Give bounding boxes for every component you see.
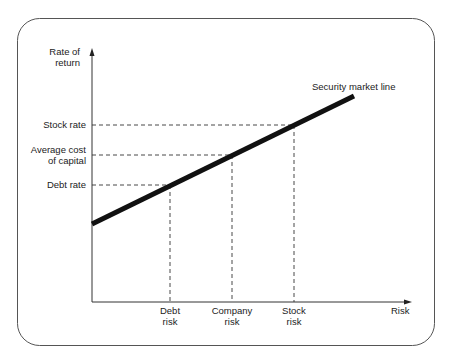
y-tick-debt-rate: Debt rate [10, 179, 86, 190]
y-axis-title-line2: return [30, 57, 80, 68]
y-axis-title-line1: Rate of [30, 46, 80, 57]
security-market-line-diagram: Rate of return Stock rate Average cost o… [0, 0, 452, 361]
x-tick-company-risk-line1: Company [202, 305, 262, 316]
x-tick-company-risk: Company risk [202, 305, 262, 327]
y-tick-average-cost: Average cost of capital [10, 144, 86, 166]
x-tick-debt-risk-line1: Debt [145, 305, 195, 316]
security-market-line [92, 96, 354, 224]
security-market-line-label: Security market line [312, 81, 395, 92]
y-tick-stock-rate: Stock rate [10, 119, 86, 130]
x-tick-debt-risk-line2: risk [145, 316, 195, 327]
x-tick-company-risk-line2: risk [202, 316, 262, 327]
y-tick-average-cost-line1: Average cost [10, 144, 86, 155]
x-tick-stock-risk-line1: Stock [269, 305, 319, 316]
x-axis-title: Risk [391, 305, 409, 316]
x-tick-stock-risk: Stock risk [269, 305, 319, 327]
x-tick-stock-risk-line2: risk [269, 316, 319, 327]
x-axis-arrow-icon [404, 300, 412, 305]
x-tick-debt-risk: Debt risk [145, 305, 195, 327]
y-axis-arrow-icon [90, 48, 95, 56]
y-tick-average-cost-line2: of capital [10, 155, 86, 166]
y-axis-title: Rate of return [30, 46, 80, 68]
